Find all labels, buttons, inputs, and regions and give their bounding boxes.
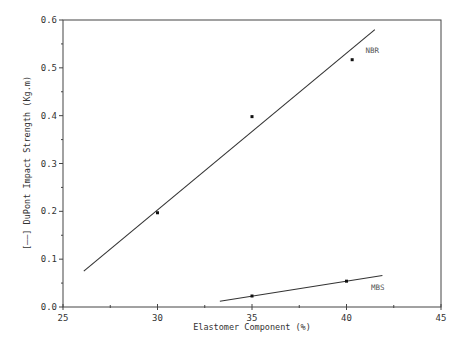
chart: 2530354045 0.00.10.20.30.40.50.6 NBRMBS … — [0, 0, 469, 348]
data-point — [251, 294, 254, 297]
x-tick-label: 40 — [341, 313, 352, 323]
y-tick-label: 0.4 — [41, 111, 57, 121]
y-tick-label: 0.3 — [41, 159, 57, 169]
fit-line — [220, 275, 383, 301]
plot-border — [63, 20, 441, 307]
data-series: NBRMBS — [84, 30, 385, 302]
y-tick-label: 0.6 — [41, 15, 57, 25]
series-label: MBS — [371, 283, 385, 292]
series-label: NBR — [365, 46, 379, 55]
x-tick-label: 25 — [58, 313, 69, 323]
x-tick-label: 45 — [436, 313, 447, 323]
y-axis-ticks: 0.00.10.20.30.40.50.6 — [41, 15, 63, 312]
data-point — [251, 115, 254, 118]
series-mbs: MBS — [220, 275, 385, 301]
series-nbr: NBR — [84, 30, 380, 272]
data-point — [351, 58, 354, 61]
x-tick-label: 30 — [152, 313, 163, 323]
y-tick-label: 0.2 — [41, 206, 57, 216]
y-tick-label: 0.5 — [41, 63, 57, 73]
y-tick-label: 0.0 — [41, 302, 57, 312]
y-tick-label: 0.1 — [41, 254, 57, 264]
y-axis-label: [——] DuPont Impact Strength (Kg.m) — [22, 76, 32, 250]
fit-line — [84, 30, 375, 272]
x-axis-label: Elastomer Component (%) — [193, 322, 311, 332]
data-point — [345, 280, 348, 283]
plot-frame — [63, 20, 441, 307]
data-point — [156, 211, 159, 214]
